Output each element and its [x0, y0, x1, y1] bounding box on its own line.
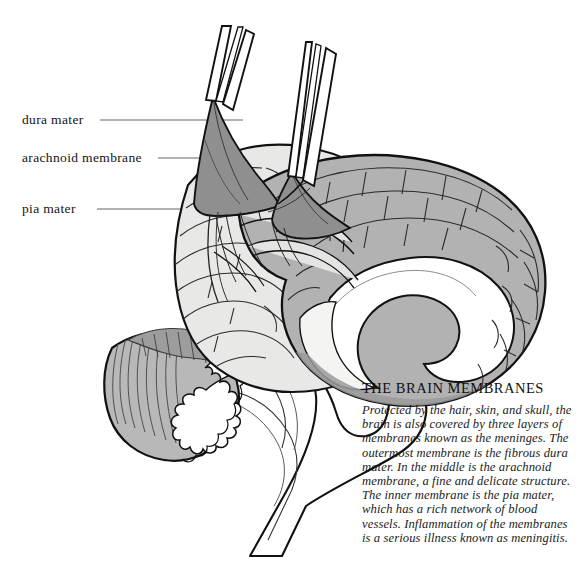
label-arachnoid-membrane: arachnoid membrane	[22, 151, 142, 165]
label-pia-mater: pia mater	[22, 202, 76, 216]
caption-block: THE BRAIN MEMBRANES Protected by the hai…	[362, 381, 574, 545]
caption-title: THE BRAIN MEMBRANES	[362, 381, 574, 397]
caption-body: Protected by the hair, skin, and skull, …	[362, 403, 574, 545]
label-dura-mater: dura mater	[22, 113, 84, 127]
